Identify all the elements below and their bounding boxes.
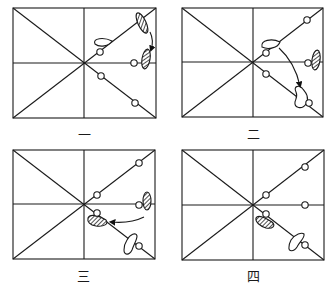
- arrow: [111, 217, 144, 222]
- node-circle: [305, 60, 311, 66]
- arrow: [150, 32, 152, 50]
- panel-3-label: 三: [63, 266, 103, 285]
- node-circle: [94, 192, 100, 198]
- open-loop: [95, 39, 112, 47]
- node-circle: [136, 160, 142, 166]
- panel-2-label: 二: [233, 124, 273, 143]
- hatched-blob: [256, 216, 274, 228]
- panel-2: [182, 8, 323, 117]
- hatched-blob: [143, 192, 151, 210]
- node-circle: [263, 71, 269, 77]
- node-circle: [306, 100, 312, 106]
- node-circle: [263, 211, 269, 217]
- panel-4: [182, 150, 324, 260]
- diagram-canvas: [0, 0, 332, 288]
- node-circle: [302, 242, 308, 248]
- arrow: [279, 48, 300, 86]
- node-circle: [97, 49, 103, 55]
- node-circle: [132, 100, 138, 106]
- hatched-blob: [140, 48, 151, 69]
- node-circle: [302, 164, 308, 170]
- node-circle: [136, 243, 142, 249]
- open-loop: [262, 40, 280, 48]
- node-circle: [263, 192, 269, 198]
- node-circle: [94, 210, 100, 216]
- node-circle: [136, 202, 142, 208]
- hatched-blob: [88, 215, 107, 226]
- node-circle: [304, 17, 310, 23]
- panel-1-label: 一: [64, 124, 104, 143]
- panel-4-label: 四: [233, 266, 273, 285]
- node-circle: [98, 73, 104, 79]
- node-circle: [131, 60, 137, 66]
- hatched-blob: [311, 50, 322, 71]
- panel-1: [13, 8, 156, 118]
- node-circle: [302, 202, 308, 208]
- node-circle: [263, 50, 269, 56]
- open-blob: [289, 233, 304, 251]
- panel-3: [13, 150, 155, 259]
